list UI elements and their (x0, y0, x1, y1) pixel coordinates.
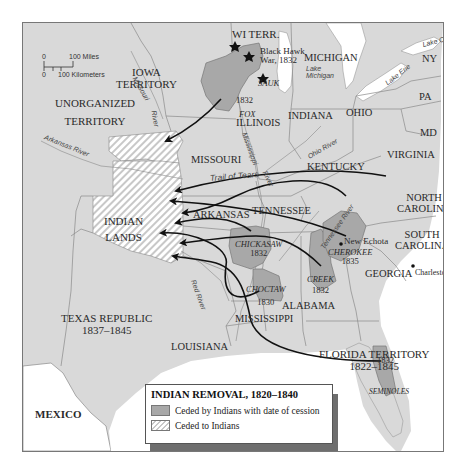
label-tribe-cherokee: CHEROKEE 1835 (328, 248, 372, 266)
indian-lands-area (109, 131, 183, 163)
label-tribe-sauk: SAUK (258, 79, 279, 88)
label-tennessee: TENNESSEE (252, 205, 311, 216)
label-tribe-choctaw: CHOCTAW 1830 (246, 285, 286, 307)
label-tribe-chickasaw: CHICKASAW 1832 (235, 240, 282, 258)
label-north-carolina: NORTH CAROLINA (397, 192, 444, 214)
legend-item-ceded-to-indians: Ceded to Indians (151, 418, 327, 433)
label-fox-year: 1832 (236, 96, 253, 105)
label-ny: NY (422, 53, 437, 64)
scale-miles-label: 100 Miles (69, 53, 99, 60)
label-florida-territory: FLORIDA TERRITORY 1822–1845 (319, 349, 430, 372)
label-lake-michigan: Lake Michigan (306, 65, 334, 80)
label-iowa-territory: IOWA TERRITORY (116, 67, 177, 90)
label-unorganized-territory: UNORGANIZED TERRITORY (55, 98, 135, 127)
label-arkansas: ARKANSAS (193, 209, 250, 220)
label-tribe-fox: FOX (239, 110, 256, 119)
new-echota-dot (339, 242, 343, 246)
label-pa: PA (419, 91, 431, 102)
label-georgia: GEORGIA (365, 268, 412, 279)
map-legend: INDIAN REMOVAL, 1820–1840 Ceded by India… (145, 384, 333, 444)
label-new-echota: New Echota (344, 237, 388, 246)
label-kentucky: KENTUCKY (307, 161, 365, 172)
label-tribe-seminoles: SEMINOLES (369, 388, 409, 396)
legend-item-ceded-by-indians: Ceded by Indians with date of cession (151, 403, 327, 418)
label-tribe-creek: CREEK 1832 (307, 275, 334, 295)
label-alabama: ALABAMA (282, 300, 335, 311)
label-black-hawk-war: Black Hawk War, 1832 (260, 47, 305, 66)
scale-km-label: 100 Kilometers (58, 71, 105, 78)
label-seminole-year: 1832 (377, 356, 394, 365)
label-indian-lands: INDIAN LANDS (104, 216, 143, 243)
label-wi-territory: WI TERR. (232, 29, 279, 41)
label-mississippi: MISSISSIPPI (235, 313, 293, 324)
label-south-carolina: SOUTH CAROLINA (395, 229, 444, 251)
label-ohio: OHIO (346, 107, 372, 118)
label-charleston: Charleston (415, 269, 444, 277)
legend-label: Ceded by Indians with date of cession (175, 406, 320, 416)
solid-swatch-icon (151, 405, 170, 416)
label-virginia: VIRGINIA (387, 149, 435, 160)
scale-miles-zero: 0 (42, 53, 46, 60)
label-mexico: MEXICO (35, 409, 81, 421)
legend-title: INDIAN REMOVAL, 1820–1840 (151, 389, 327, 400)
label-indiana: INDIANA (288, 110, 333, 121)
label-louisiana: LOUISIANA (171, 341, 228, 352)
legend-label: Ceded to Indians (175, 421, 239, 431)
label-missouri: MISSOURI (191, 154, 241, 165)
label-texas-republic: TEXAS REPUBLIC 1837–1845 (61, 313, 152, 336)
label-md: MD (420, 127, 437, 138)
scale-km-zero: 0 (42, 71, 46, 78)
hatched-swatch-icon (151, 420, 170, 431)
label-michigan: MICHIGAN (304, 52, 358, 63)
